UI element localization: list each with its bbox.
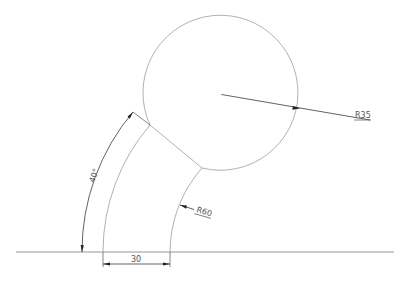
arrow-icon (81, 245, 84, 252)
r35-label: R35 (355, 111, 371, 120)
r60-dimension: R60 (180, 205, 213, 218)
arrow-icon (163, 263, 170, 266)
angle-label: 40° (87, 167, 100, 183)
arrow-icon (180, 205, 187, 209)
r35-dimension: R35 (222, 95, 372, 121)
width-dimension: 30 (103, 252, 170, 267)
arrow-icon (103, 263, 110, 266)
tangent-line (150, 125, 202, 168)
angle-dimension: 40° (81, 112, 150, 252)
outer-arc (103, 125, 150, 252)
width-label: 30 (131, 255, 141, 264)
circle-r35 (143, 15, 298, 170)
cad-drawing: R35 R60 30 40° (0, 0, 406, 285)
